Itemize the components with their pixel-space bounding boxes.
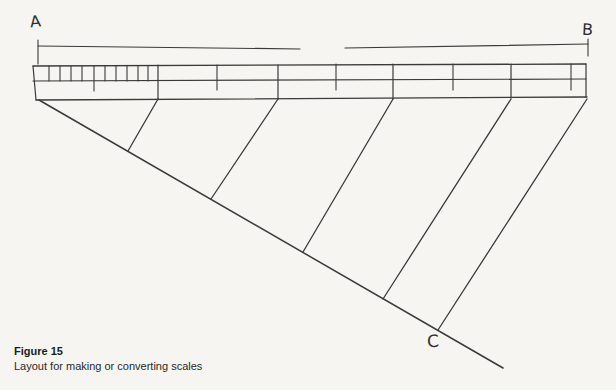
figure-caption: Figure 15 Layout for making or convertin… xyxy=(14,344,202,373)
scale-layout-drawing xyxy=(0,0,616,390)
figure-15-diagram: A B C Figure 15 Layout for making or con… xyxy=(0,0,616,390)
projection-line xyxy=(211,99,278,199)
point-c-label: C xyxy=(426,331,439,352)
projection-line xyxy=(438,99,587,330)
projection-line xyxy=(383,99,511,299)
projection-line xyxy=(128,99,158,151)
ruler-left-edge xyxy=(33,66,36,100)
projection-line xyxy=(303,99,393,252)
figure-caption-title: Figure 15 xyxy=(14,344,202,358)
point-a-label: A xyxy=(29,11,42,31)
ab-line-right-segment xyxy=(345,44,588,48)
ab-line-left-segment xyxy=(38,46,300,49)
point-b-label: B xyxy=(582,20,594,40)
figure-caption-subtitle: Layout for making or converting scales xyxy=(14,359,202,373)
main-diagonal xyxy=(39,100,503,368)
ruler-bottom-edge xyxy=(36,97,587,100)
